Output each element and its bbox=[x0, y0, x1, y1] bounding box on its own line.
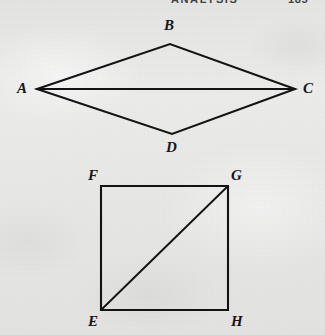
scanned-textbook-page: ANALYSIS 185 A B C D F G E H bbox=[0, 0, 325, 335]
vertex-label-g: G bbox=[231, 168, 242, 183]
vertex-label-b: B bbox=[164, 18, 174, 33]
vertex-label-c: C bbox=[303, 81, 313, 96]
vertex-label-h: H bbox=[231, 314, 243, 329]
vertex-label-f: F bbox=[88, 168, 98, 183]
square-diagonal-eg bbox=[101, 186, 228, 310]
vertex-label-a: A bbox=[17, 81, 27, 96]
figure-square-efgh bbox=[101, 186, 228, 310]
vertex-label-d: D bbox=[166, 140, 177, 155]
figure-rhombus-abcd bbox=[37, 44, 295, 134]
vertex-label-e: E bbox=[88, 314, 98, 329]
geometry-figures-canvas bbox=[0, 0, 325, 335]
